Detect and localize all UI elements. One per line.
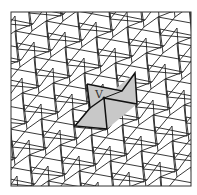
tile-edge [129,27,144,45]
tile-edge [129,187,132,195]
tile-edge [0,103,8,121]
tile-edge [162,189,165,195]
tile-edge [143,151,158,169]
tile-edge [60,3,92,6]
tile-edge [166,188,179,195]
tile-edge [91,0,94,11]
tile-edge [148,53,163,71]
tile-edge [193,185,197,188]
tile-edge [193,179,197,186]
tile-edge [179,43,194,61]
tile-edge [110,19,142,22]
tile-edge [60,0,75,3]
tile-edge [136,107,168,110]
tile-edge [0,177,3,195]
tile-edge [0,34,2,41]
tile-edge [0,139,12,145]
tile-edge [98,55,130,58]
tile-edge [0,89,9,96]
tile-edge [179,188,181,195]
tile-edge [143,169,175,172]
tile-edge [129,45,161,48]
tile-edge [195,18,197,36]
tile-edge [24,111,56,114]
tile-edge [0,121,25,124]
tile-edge [0,114,10,132]
tile-edge [196,69,197,75]
tile-edge [196,69,197,100]
tile-edge [81,183,84,195]
tile-edge [62,145,77,163]
tile-edge [3,191,17,195]
tile-edge [167,97,197,100]
tile-edge [172,0,197,2]
tile-edge [29,13,61,16]
tile-edge [112,179,144,182]
tile-edge [0,27,2,34]
tile-edge [5,85,37,88]
tile-edge [0,194,4,195]
tile-edge [162,189,197,195]
tile-edge [54,192,67,195]
tile-edge [43,137,75,140]
tile-edge [3,67,6,98]
tile-edge [191,7,197,25]
tile-edge [155,133,187,136]
tile-edge [172,0,175,17]
tile-edge [141,3,176,10]
tile-edge [191,25,197,28]
tile-edge [0,41,17,47]
tile-edge [0,59,18,62]
tile-edge [8,93,22,103]
tile-edge [191,19,197,26]
tile-edge [12,129,27,147]
tile-edge [50,193,53,195]
tile-edge [17,31,32,49]
tiling-diagram: V [0,0,197,195]
tile-edge [167,79,182,97]
tile-edge [124,143,156,146]
tile-edge [196,54,197,85]
tile-edge [36,57,51,75]
tile-edge [67,47,82,65]
tile-edge [95,0,108,4]
tile-edge [27,0,60,1]
tile-edge [158,10,176,17]
tile-edge [0,96,9,103]
tile-edge [189,0,197,7]
tile-edge [177,43,197,49]
tile-edge [0,158,16,165]
tile-edge [55,83,70,101]
tile-edge [194,33,197,43]
tile-edge [131,187,146,195]
tile-edge [193,167,197,185]
tile-edge [108,0,126,1]
tile-edge [36,75,68,78]
tile-edge [0,5,29,11]
tile-edge [31,155,46,173]
tile-edge [24,93,39,111]
tile-edge [79,11,94,29]
tile-edge [108,1,141,7]
tile-edge [10,0,13,5]
tile-edge [33,6,46,24]
tile-edge [176,0,189,10]
tile-edge [2,16,15,34]
tile-edge [29,0,44,13]
tile-edge [1,31,15,41]
tile-edge [125,0,139,1]
tile-edge [170,0,173,12]
tile-edge [0,165,31,171]
tile-edge [0,95,6,98]
tile-edge [12,147,44,150]
tile-edge [43,119,58,137]
tile-edge [0,165,1,195]
tile-edge [98,182,100,195]
tile-edge [129,187,162,193]
tile-edge [67,192,69,195]
tile-edge [189,131,197,141]
tile-edge [79,29,111,32]
tile-edge [93,135,108,153]
tile-edge [0,193,1,195]
tile-edge [62,163,94,166]
